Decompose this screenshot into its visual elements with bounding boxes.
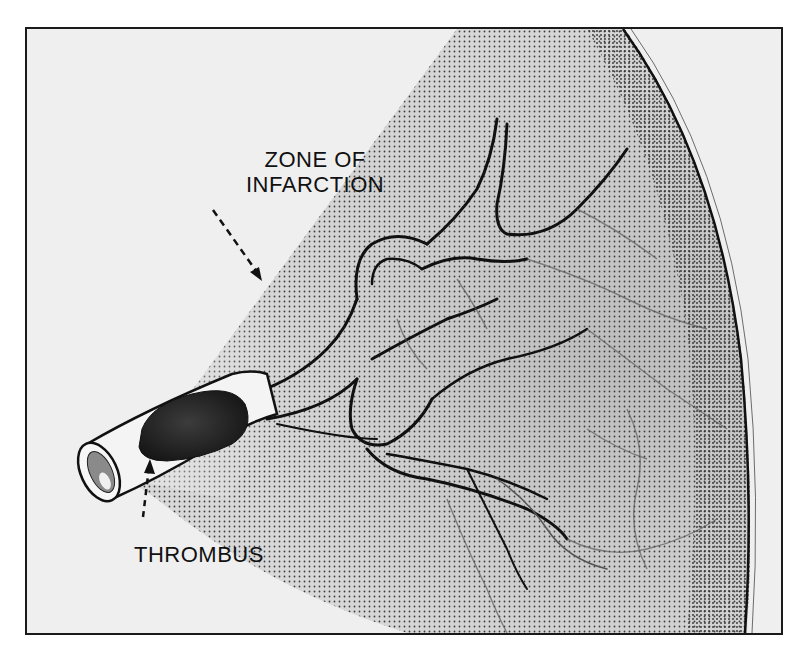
zone-of-infarction-label: ZONE OF INFARCTION <box>246 147 384 197</box>
illustration-frame: ZONE OF INFARCTION THROMBUS <box>25 27 783 635</box>
figure-canvas: ZONE OF INFARCTION THROMBUS <box>0 0 802 662</box>
thrombus-label: THROMBUS <box>134 542 264 567</box>
zone-label-line1: ZONE OF <box>246 147 384 172</box>
zone-of-infarction-arrow <box>213 210 262 281</box>
zone-label-line2: INFARCTION <box>246 172 384 197</box>
